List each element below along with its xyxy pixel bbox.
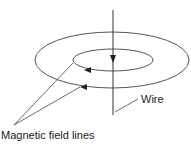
current-arrow-icon [110,55,116,63]
outer-direction-arrow-icon [80,84,87,90]
magnetic-field-diagram [0,0,191,149]
field-lines-label: Magnetic field lines [1,129,95,141]
wire-pointer-line [115,99,138,112]
wire-label: Wire [141,93,164,105]
pointer-line-outer [14,87,80,125]
pointer-line-inner [14,63,73,125]
